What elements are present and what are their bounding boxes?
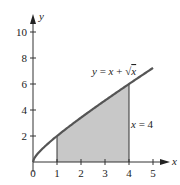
y-tick-label: 4: [22, 104, 28, 116]
x-tick-label: 4: [126, 167, 132, 179]
x-tick-label: 0: [30, 167, 36, 179]
y-axis-label: y: [38, 10, 44, 22]
x-tick-label: 1: [54, 167, 60, 179]
line-label-x-equals-4: x = 4: [130, 118, 154, 130]
curve-label: y = x + √x: [91, 65, 136, 77]
x-tick-label: 5: [150, 167, 156, 179]
x-axis-label: x: [171, 155, 177, 167]
chart: 012345 246810 x y y = x + √x x = 4: [0, 0, 180, 185]
x-tick-label: 2: [78, 167, 84, 179]
shaded-region: [57, 84, 129, 162]
y-tick-label: 8: [22, 52, 28, 64]
x-tick-label: 3: [102, 167, 108, 179]
y-tick-label: 2: [22, 130, 28, 142]
y-tick-label: 6: [22, 78, 28, 90]
x-axis-arrow-icon: [160, 159, 170, 165]
y-axis-arrow-icon: [30, 14, 36, 24]
y-tick-label: 10: [16, 26, 28, 38]
